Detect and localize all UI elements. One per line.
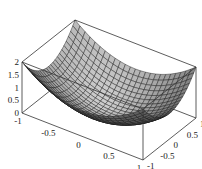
x-tick-label: 0 <box>76 140 81 150</box>
x-tick-label: 0.5 <box>103 151 115 161</box>
surface-mesh <box>22 20 196 125</box>
surface-plot: 00.511.52 -1-0.500.51 -1-0.500.51 <box>0 0 202 169</box>
y-tick-label: -0.5 <box>160 151 175 161</box>
y-tick-label: 1 <box>200 119 202 129</box>
z-axis-ticks: 00.511.52 <box>8 57 20 118</box>
z-tick-label: 1.5 <box>8 70 20 80</box>
z-tick-label: 1 <box>15 83 20 93</box>
x-tick-label: -1 <box>14 116 22 126</box>
y-tick-label: 0 <box>174 140 179 150</box>
z-tick-label: 2 <box>15 57 20 67</box>
z-tick-label: 0.5 <box>8 95 20 105</box>
y-tick-label: 0.5 <box>187 130 199 140</box>
y-axis-ticks: -1-0.500.51 <box>147 119 202 169</box>
x-tick-label: 1 <box>137 163 142 169</box>
x-tick-label: -0.5 <box>41 128 56 138</box>
y-tick-label: -1 <box>147 161 155 169</box>
